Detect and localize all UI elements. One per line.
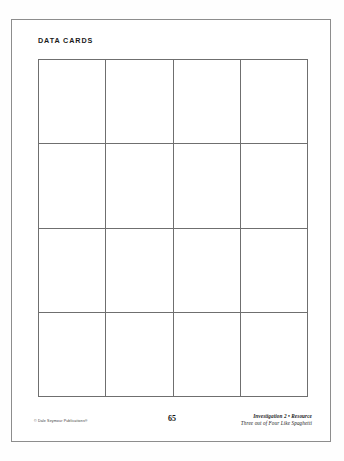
data-card-cell[interactable] (39, 60, 106, 144)
unit-title: Three out of Four Like Spaghetti (241, 420, 312, 427)
data-cards-grid (38, 59, 308, 397)
data-card-cell[interactable] (174, 144, 241, 228)
data-card-cell[interactable] (106, 229, 173, 313)
data-card-cell[interactable] (241, 229, 308, 313)
investigation-label: Investigation 2 • Resource (241, 413, 312, 420)
data-card-cell[interactable] (39, 313, 106, 397)
data-card-cell[interactable] (241, 313, 308, 397)
data-card-cell[interactable] (241, 60, 308, 144)
data-card-cell[interactable] (174, 229, 241, 313)
data-card-cell[interactable] (106, 313, 173, 397)
page-header: DATA CARDS (38, 35, 278, 47)
data-card-cell[interactable] (174, 60, 241, 144)
data-card-cell[interactable] (106, 144, 173, 228)
data-card-cell[interactable] (174, 313, 241, 397)
data-card-cell[interactable] (39, 229, 106, 313)
footer-reference: Investigation 2 • Resource Three out of … (241, 413, 312, 427)
page-title: DATA CARDS (38, 35, 278, 47)
scan-background: DATA CARDS © Dale Seymour Publications® … (0, 0, 344, 461)
data-card-cell[interactable] (39, 144, 106, 228)
worksheet-page: DATA CARDS © Dale Seymour Publications® … (11, 19, 331, 442)
page-footer: © Dale Seymour Publications® 65 Investig… (12, 412, 332, 442)
data-card-cell[interactable] (241, 144, 308, 228)
data-card-cell[interactable] (106, 60, 173, 144)
